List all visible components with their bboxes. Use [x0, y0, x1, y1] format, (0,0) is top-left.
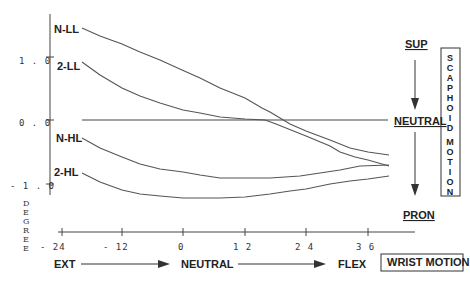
x-tick-label: 3 6 [356, 242, 375, 252]
svg-text:R: R [23, 226, 30, 235]
x-tick-label: 0 [178, 242, 184, 252]
arrow-down-icon [411, 184, 419, 196]
svg-text:O: O [446, 103, 453, 113]
svg-text:D: D [23, 199, 29, 208]
series-label-2-ll: 2-LL [57, 60, 81, 72]
svg-text:E: E [23, 208, 29, 217]
neutral-right-label: NEUTRAL [394, 115, 447, 127]
svg-text:S: S [447, 53, 453, 63]
svg-text:O: O [446, 147, 453, 157]
y-tick-label: 1 . 0 [19, 56, 51, 66]
svg-text:A: A [447, 73, 454, 83]
series-label-n-ll: N-LL [54, 23, 79, 35]
scaphoid-motion-chart: 1 . 0 0 . 0 - 1 . 0 D E G R E E - 24 - 1… [0, 0, 470, 281]
svg-text:E: E [23, 235, 29, 244]
x-tick-label: - 12 [103, 242, 129, 252]
arrow-right-icon [314, 260, 326, 268]
pron-label: PRON [403, 209, 435, 221]
svg-text:E: E [23, 244, 29, 253]
y-tick-label: 0 . 0 [19, 118, 51, 128]
curve-n-ll [82, 28, 389, 155]
ext-label: EXT [54, 258, 76, 270]
svg-text:I: I [449, 113, 452, 123]
sup-label: SUP [405, 38, 428, 50]
x-tick-label: 1 2 [233, 242, 252, 252]
curve-n-hl [82, 138, 389, 178]
svg-text:N: N [447, 187, 454, 197]
svg-text:G: G [23, 217, 29, 226]
neutral-bottom-label: NEUTRAL [181, 258, 234, 270]
svg-text:T: T [447, 157, 453, 167]
arrow-down-icon [411, 98, 419, 110]
wrist-motion-label: WRIST MOTION [387, 256, 470, 268]
y-axis-label: D E G R E E [23, 199, 30, 253]
svg-text:H: H [447, 93, 454, 103]
svg-text:O: O [446, 177, 453, 187]
curve-2-ll [82, 62, 389, 166]
arrow-right-icon [158, 260, 170, 268]
svg-text:M: M [446, 137, 454, 147]
svg-text:P: P [447, 83, 453, 93]
x-tick-label: 2 4 [295, 242, 314, 252]
svg-text:D: D [447, 123, 454, 133]
y-tick-label: - 1 . 0 [10, 181, 55, 191]
scaphoid-motion-label: S C A P H O I D M O T I O N [446, 53, 454, 197]
x-tick-label: - 24 [40, 242, 66, 252]
curve-2-hl [82, 173, 389, 198]
series-label-n-hl: N-HL [56, 132, 83, 144]
series-label-2-hl: 2-HL [54, 166, 79, 178]
flex-label: FLEX [338, 258, 367, 270]
svg-text:I: I [449, 167, 452, 177]
svg-text:C: C [447, 63, 454, 73]
